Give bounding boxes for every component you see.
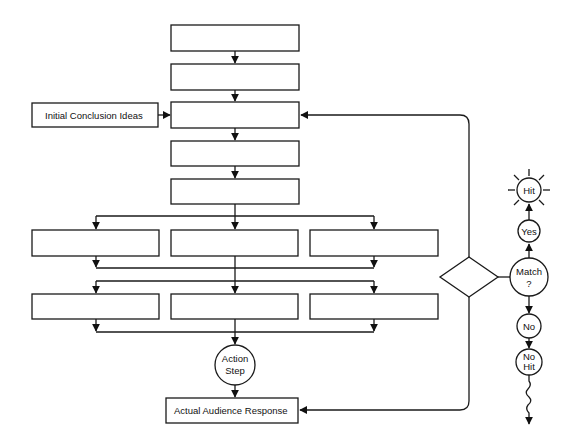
action-step-label-2: Step [225,365,245,376]
row1-box-right [310,230,438,256]
feedback-loop [300,115,469,410]
flowchart-canvas: Initial Conclusion Ideas Action Step [0,0,575,448]
no-node: No [517,314,541,338]
yes-label: Yes [521,226,537,237]
yes-node: Yes [518,220,540,242]
main-box-3 [171,102,299,128]
row2-box-right [310,294,438,319]
main-box-1 [171,25,299,51]
match-label-1: Match [516,266,542,277]
hit-node: Hit [508,169,550,205]
row1-box-left [32,230,159,256]
split-1 [96,204,374,229]
initial-conclusion-ideas-box: Initial Conclusion Ideas [32,103,158,127]
initial-conclusion-ideas-label: Initial Conclusion Ideas [45,110,143,121]
wavy-downward-arrow [526,375,531,424]
main-box-5 [171,179,299,204]
row1-box-center [171,230,298,256]
action-step-node: Action Step [215,345,255,385]
main-box-4 [171,141,299,166]
action-step-label-1: Action [222,353,248,364]
merge-split-2 [96,256,374,293]
no-label: No [523,321,535,332]
no-hit-label-2: Hit [523,361,535,372]
row2-box-center [171,294,298,319]
no-hit-node: No Hit [516,349,542,375]
main-box-2 [171,64,299,90]
hit-label: Hit [523,185,535,196]
merge-2 [96,319,374,344]
match-label-2: ? [526,278,531,289]
actual-audience-response-label: Actual Audience Response [174,405,288,416]
decision-diamond [440,257,498,297]
row2-box-left [32,294,159,319]
match-node: Match ? [510,258,548,296]
actual-audience-response-box: Actual Audience Response [166,398,298,423]
